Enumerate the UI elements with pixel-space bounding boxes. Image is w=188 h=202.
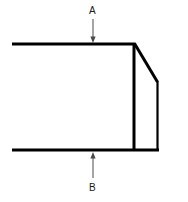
arrowhead-up-icon <box>90 152 95 159</box>
figure-canvas: A B <box>0 0 188 202</box>
label-a: A <box>89 6 96 16</box>
chamfer-line <box>135 44 158 83</box>
arrowhead-down-icon <box>90 37 95 44</box>
leader-b <box>90 152 95 178</box>
label-b: B <box>89 183 96 193</box>
leader-a <box>90 19 95 43</box>
profile-outline <box>12 43 159 151</box>
technical-drawing <box>0 0 188 202</box>
